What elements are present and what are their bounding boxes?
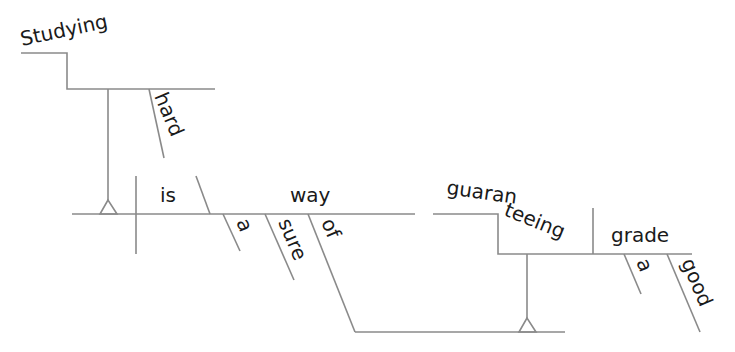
predicate-complement-divider (196, 176, 210, 214)
subject-gerund-stand (21, 53, 215, 89)
sentence-diagram: Studying hard is way a sure of guaran te… (0, 0, 735, 352)
word-hard: hard (149, 89, 189, 140)
word-is: is (160, 183, 176, 207)
word-grade: grade (611, 223, 669, 247)
word-way: way (290, 183, 331, 207)
diagram-canvas: Studying hard is way a sure of guaran te… (0, 0, 735, 352)
pedestal-foot-subject (100, 200, 117, 214)
word-a: a (231, 215, 258, 236)
word-good: good (676, 255, 718, 310)
word-guaranteeing-part2: teeing (501, 197, 569, 243)
word-sure: sure (273, 215, 312, 264)
word-of: of (316, 215, 346, 243)
pedestal-foot-gerund (519, 318, 536, 332)
word-studying: Studying (18, 9, 110, 51)
word-a2: a (631, 255, 658, 276)
